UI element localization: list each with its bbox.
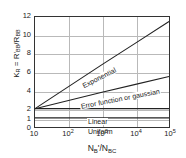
series-label-linear: Linear bbox=[87, 118, 108, 125]
x-axis-tick-label: 105 bbox=[164, 130, 175, 138]
x-axis-tick-label: 104 bbox=[130, 130, 141, 138]
plot-area: Exponential Error function or gaussian L… bbox=[34, 16, 170, 128]
x-axis-tick-label: 10 bbox=[30, 130, 38, 138]
y-axis-tick-label: 6 bbox=[27, 68, 31, 76]
y-axis-tick-label: 8 bbox=[27, 50, 31, 58]
x-axis-tick-label: 102 bbox=[62, 130, 73, 138]
x-axis-title: NB'/NBC bbox=[34, 143, 170, 153]
y-axis-tick-label: 1 bbox=[27, 115, 31, 123]
y-axis-tick-label: 12 bbox=[23, 12, 31, 20]
y-axis-tick-label: 2 bbox=[27, 106, 31, 114]
chart-figure: KR = R'BB/RBB 1210864210 Exponential Err… bbox=[0, 0, 186, 158]
y-axis-tick-labels: 1210864210 bbox=[0, 16, 31, 128]
y-axis-tick-label: 4 bbox=[27, 87, 31, 95]
x-axis-tick-label: 103 bbox=[96, 130, 107, 138]
x-axis-title-denominator-sub: BC bbox=[108, 148, 116, 154]
y-axis-tick-label: 10 bbox=[23, 31, 31, 39]
x-axis-tick-labels: 10102103104105 bbox=[34, 130, 170, 143]
